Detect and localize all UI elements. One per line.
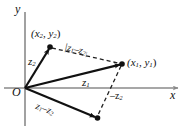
x-axis-label: x: [170, 88, 175, 103]
pt2-open: (x: [31, 27, 40, 39]
z1-sub: 1: [86, 81, 89, 88]
vector-z1-minus-z2: [25, 88, 95, 117]
neg-z2-sub: 2: [119, 94, 122, 101]
point-label-x1-y1: (x1, y1): [127, 56, 156, 68]
point-label-x2-y2: (x2, y2): [31, 27, 60, 39]
pt2-close: ): [57, 27, 61, 39]
complex-plane-vector-diagram: y x O (x2, y2) (x1, y1) z2 z1 |z1–z2| z1…: [0, 0, 188, 132]
label-z1: z1: [82, 76, 90, 88]
pt1-open: (x: [127, 56, 136, 68]
origin-label: O: [12, 85, 21, 100]
pt2-mid: , y: [43, 27, 53, 39]
label-neg-z2: –z2: [110, 90, 123, 101]
z2-sub: 2: [32, 60, 35, 67]
point-x2-y2: [47, 44, 53, 50]
pt1-mid: , y: [139, 56, 149, 68]
label-z2: z2: [28, 55, 36, 67]
point-z1-minus-z2: [95, 115, 101, 121]
y-axis-label: y: [15, 2, 20, 17]
point-x1-y1: [119, 61, 125, 67]
pt1-close: ): [153, 56, 157, 68]
vector-z1: [25, 65, 120, 88]
